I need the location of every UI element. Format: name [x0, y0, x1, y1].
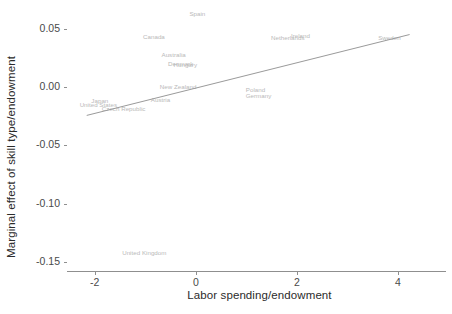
x-tick-label: 4 [383, 276, 413, 288]
x-axis-line [67, 271, 446, 272]
x-tick-mark [297, 272, 298, 275]
point-label: United Kingdom [122, 249, 166, 256]
chart-figure: Marginal effect of skill type/endowment … [0, 0, 452, 314]
y-tick-label: 0.05 [0, 22, 60, 34]
y-axis-title: Marginal effect of skill type/endowment [0, 0, 22, 314]
point-label: Sweden [378, 34, 400, 41]
point-label: New Zealand [160, 83, 197, 90]
x-tick-mark [95, 272, 96, 275]
x-tick-mark [196, 272, 197, 275]
x-tick-label: 0 [181, 276, 211, 288]
point-label: Austria [151, 95, 170, 102]
point-label: Germany [246, 91, 272, 98]
plot-panel: SpainCanadaIrelandNetherlandsSwedenAustr… [67, 8, 446, 271]
point-label: Canada [143, 33, 165, 40]
x-tick-label: -2 [80, 276, 110, 288]
x-axis-title: Labor spending/endowment [67, 289, 452, 301]
x-tick-label: 2 [282, 276, 312, 288]
point-label: Netherlands [271, 34, 305, 41]
y-tick-label: -0.05 [0, 138, 60, 150]
point-label: Australia [161, 51, 185, 58]
point-label: Czech Republic [102, 104, 146, 111]
point-label: Hungary [173, 61, 197, 68]
y-tick-label: 0.00 [0, 80, 60, 92]
x-tick-mark [398, 272, 399, 275]
y-tick-label: -0.15 [0, 255, 60, 267]
y-tick-label: -0.10 [0, 197, 60, 209]
point-label: Spain [189, 10, 205, 17]
